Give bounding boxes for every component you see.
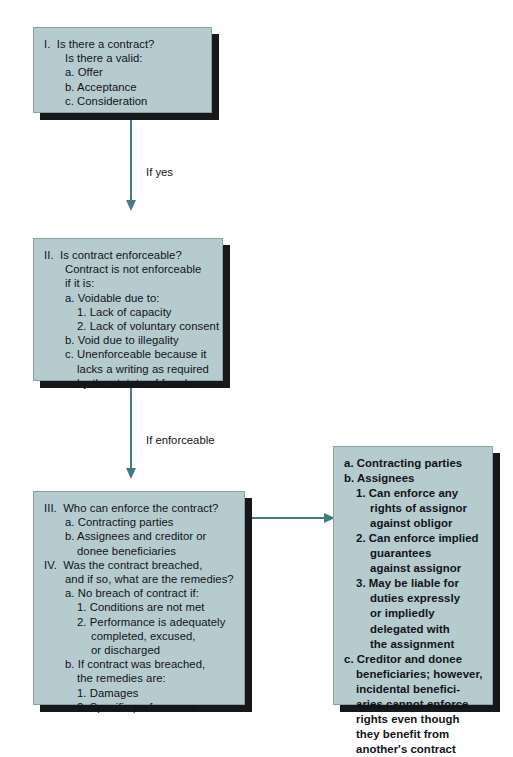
node-line: b. Void due to illegality [44, 333, 212, 347]
node-line: duties expressly [344, 591, 482, 606]
node-line: 2. Specific performance [44, 700, 234, 714]
node-line: rights of assignor [344, 501, 482, 516]
node-line: 1. Conditions are not met [44, 600, 234, 614]
node-line: against obligor [344, 516, 482, 531]
node-line: a. Contracting parties [44, 515, 234, 529]
node-text-enforcement-detail: a. Contracting partiesb. Assignees1. Can… [344, 456, 482, 757]
node-line: or discharged [44, 643, 234, 657]
node-line: completed, excused, [44, 629, 234, 643]
node-line: II. Is contract enforceable? [44, 248, 212, 262]
node-line: b. If contract was breached, [44, 657, 234, 671]
node-line: a. No breach of contract if: [44, 586, 234, 600]
node-line: by the statute of frauds [44, 376, 212, 390]
node-line: or impliedly [344, 606, 482, 621]
connector-label-if-yes: If yes [146, 166, 173, 179]
node-line: b. Acceptance [44, 80, 201, 94]
flowchart-node-enforcement-detail[interactable]: a. Contracting partiesb. Assignees1. Can… [333, 446, 493, 705]
node-line: they benefit from [344, 727, 482, 742]
node-line: against assignor [344, 561, 482, 576]
node-line: the assignment [344, 637, 482, 652]
node-line: 2. Can enforce implied [344, 531, 482, 546]
connector-step1-to-step2-line [130, 120, 132, 203]
node-line: aries cannot enforce [344, 697, 482, 712]
node-text-step-2: II. Is contract enforceable?Contract is … [44, 248, 212, 390]
node-line: I. Is there a contract? [44, 37, 201, 51]
connector-label-if-enforceable: If enforceable [146, 434, 214, 447]
node-line: and if so, what are the remedies? [44, 572, 234, 586]
node-line: a. Voidable due to: [44, 291, 212, 305]
node-line: b. Assignees and creditor or [44, 529, 234, 543]
flowchart-node-step-1[interactable]: I. Is there a contract?Is there a valid:… [33, 27, 212, 113]
connector-step3-to-detail-line [252, 517, 328, 519]
connector-step2-to-step3-arrowhead-icon [126, 468, 136, 479]
connector-step2-to-step3-line [130, 388, 132, 471]
node-line: c. Consideration [44, 94, 201, 108]
node-line: if it is: [44, 276, 212, 290]
node-line: 2. Performance is adequately [44, 615, 234, 629]
node-line: guarantees [344, 546, 482, 561]
node-line: another's contract [344, 742, 482, 757]
node-line: a. Offer [44, 65, 201, 79]
node-line: b. Assignees [344, 471, 482, 486]
node-line: IV. Was the contract breached, [44, 558, 234, 572]
connector-step1-to-step2-arrowhead-icon [126, 200, 136, 211]
node-line: beneficiaries; however, [344, 667, 482, 682]
node-line: c. Unenforceable because it [44, 347, 212, 361]
node-line: Contract is not enforceable [44, 262, 212, 276]
node-line: 3. May be liable for [344, 576, 482, 591]
node-line: donee beneficiaries [44, 544, 234, 558]
node-line: 1. Damages [44, 686, 234, 700]
flowchart-node-step-3[interactable]: III. Who can enforce the contract?a. Con… [33, 491, 245, 705]
node-line: a. Contracting parties [344, 456, 482, 471]
node-line: lacks a writing as required [44, 362, 212, 376]
node-text-step-1: I. Is there a contract?Is there a valid:… [44, 37, 201, 108]
node-line: rights even though [344, 712, 482, 727]
node-line: the remedies are: [44, 671, 234, 685]
node-line: incidental benefici- [344, 682, 482, 697]
node-line: delegated with [344, 622, 482, 637]
node-line: c. Creditor and donee [344, 652, 482, 667]
node-line: Is there a valid: [44, 51, 201, 65]
node-line: 2. Lack of voluntary consent [44, 319, 212, 333]
node-line: III. Who can enforce the contract? [44, 501, 234, 515]
node-line: 1. Can enforce any [344, 486, 482, 501]
node-text-step-3: III. Who can enforce the contract?a. Con… [44, 501, 234, 714]
node-line: 1. Lack of capacity [44, 305, 212, 319]
flowchart-node-step-2[interactable]: II. Is contract enforceable?Contract is … [33, 238, 223, 381]
